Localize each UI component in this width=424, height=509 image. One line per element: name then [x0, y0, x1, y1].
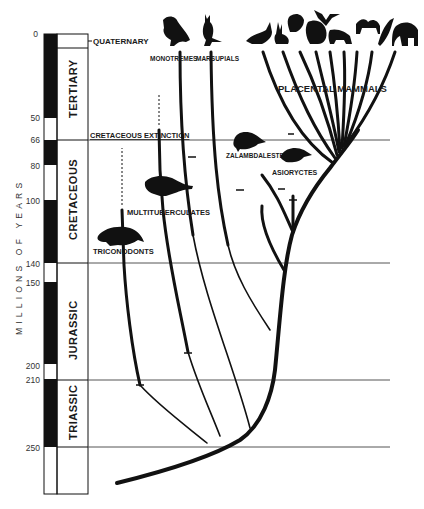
- label-multituberculates: MULTITUBERCULATES: [127, 208, 210, 217]
- polarity-bar: [44, 34, 57, 494]
- label-marsupials: MARSUPIALS: [196, 55, 240, 62]
- period-triassic: TRIASSIC: [67, 385, 79, 440]
- triconodont-icon: [97, 227, 144, 246]
- placental-animals-row: [246, 10, 418, 46]
- lineage-labels: MONOTREMES MARSUPIALS PLACENTAL MAMMALS …: [93, 55, 387, 256]
- phylogeny-branches: [117, 52, 395, 483]
- tick-labels: 0 50 66 80 100 140 150 200 210 250: [26, 29, 40, 453]
- cretaceous-extinction-label: CRETACEOUS EXTINCTION: [90, 131, 189, 140]
- period-tertiary: TERTIARY: [67, 59, 79, 118]
- asioryctes-icon: [281, 148, 312, 162]
- tiger-icon: [329, 29, 353, 44]
- tick-80: 80: [31, 161, 41, 171]
- period-column: TERTIARY CRETACEOUS JURASSIC TRIASSIC: [57, 34, 88, 494]
- zalambdalestes-icon: [233, 132, 266, 152]
- tick-0: 0: [33, 29, 38, 39]
- period-cretaceous: CRETACEOUS: [67, 159, 79, 240]
- mammal-evolution-diagram: MILLIONS OF YEARS 0 50 66 80 100 140 150…: [0, 0, 424, 509]
- label-placental-mammals: PLACENTAL MAMMALS: [278, 83, 387, 94]
- tick-150: 150: [26, 278, 40, 288]
- tick-210: 210: [26, 375, 40, 385]
- tick-66: 66: [31, 135, 41, 145]
- label-monotremes: MONOTREMES: [150, 55, 198, 62]
- label-triconodonts: TRICONODONTS: [93, 247, 154, 256]
- dolphin-icon: [378, 18, 394, 46]
- period-quaternary: QUATERNARY: [93, 37, 149, 46]
- label-asioryctes: ASIORYCTES: [272, 169, 318, 176]
- rabbit-icon: [275, 22, 289, 44]
- monotreme-icon: [163, 16, 190, 46]
- axis-title: MILLIONS OF YEARS: [14, 179, 24, 335]
- period-jurassic: JURASSIC: [67, 300, 79, 360]
- squirrel-icon: [288, 14, 304, 32]
- gorilla-icon: [306, 20, 327, 44]
- tick-50: 50: [31, 113, 41, 123]
- tick-100: 100: [26, 196, 40, 206]
- time-gridlines: [88, 140, 390, 447]
- tick-140: 140: [26, 259, 40, 269]
- label-zalambdalestes: ZALAMBDALESTES: [226, 152, 289, 159]
- tick-200: 200: [26, 361, 40, 371]
- tick-250: 250: [26, 443, 40, 453]
- dinosaur-like-mammal-icon: [246, 22, 272, 44]
- elephant-icon: [392, 23, 418, 46]
- camel-icon: [356, 19, 380, 34]
- kangaroo-icon: [203, 14, 222, 46]
